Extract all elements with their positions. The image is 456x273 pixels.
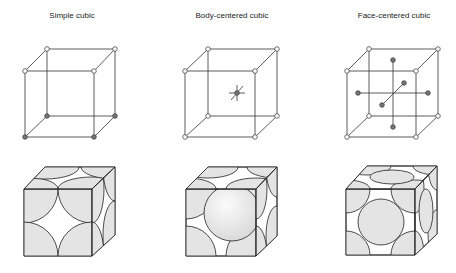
fcc-packing — [322, 142, 456, 273]
bcc-packing — [156, 137, 307, 273]
crystal-lattice-diagram — [0, 0, 456, 273]
simple-cubic-packing — [0, 133, 149, 273]
bcc-lattice — [185, 49, 277, 137]
simple-cubic-lattice — [25, 49, 115, 137]
